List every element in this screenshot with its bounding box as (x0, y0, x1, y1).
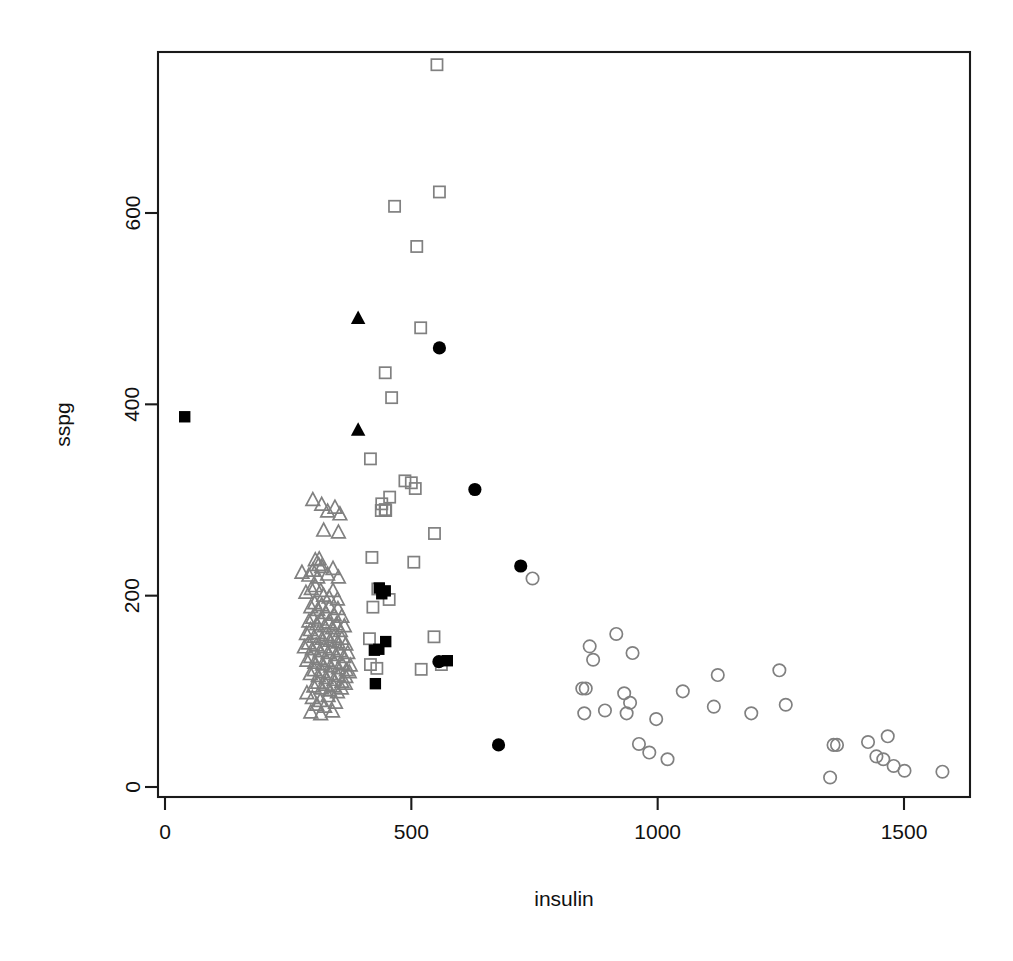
x-axis-title: insulin (534, 887, 594, 910)
y-tick-label: 600 (121, 195, 144, 230)
data-point (599, 704, 611, 716)
data-point (745, 707, 757, 719)
data-point (367, 602, 378, 613)
data-point (492, 738, 505, 751)
data-point (434, 186, 445, 197)
x-tick-label: 0 (159, 820, 171, 843)
data-point (433, 341, 446, 354)
data-point (610, 628, 622, 640)
data-point (514, 559, 527, 572)
data-point (429, 528, 440, 539)
data-point (898, 765, 910, 777)
data-point (428, 631, 439, 642)
data-point (578, 707, 590, 719)
data-point (365, 453, 376, 464)
data-point (526, 572, 538, 584)
data-point (936, 765, 948, 777)
x-tick-label: 1000 (634, 820, 681, 843)
data-point (384, 492, 395, 503)
data-point (366, 552, 377, 563)
data-point (643, 746, 655, 758)
series-filled-circle-black (432, 341, 527, 751)
y-axis-title: sspg (51, 402, 74, 446)
data-points-layer (179, 59, 949, 784)
plot-box (158, 52, 970, 797)
data-point (386, 392, 397, 403)
scatter-plot-figure: 0500100015000200400600insulinsspg (0, 0, 1013, 961)
data-point (411, 241, 422, 252)
data-point (408, 557, 419, 568)
x-tick-label: 1500 (881, 820, 928, 843)
data-point (468, 483, 481, 496)
data-point (620, 707, 632, 719)
axes-layer (145, 52, 970, 810)
data-point (380, 367, 391, 378)
data-point (370, 678, 381, 689)
data-point (389, 201, 400, 212)
data-point (677, 685, 689, 697)
data-point (364, 633, 375, 644)
data-point (179, 411, 190, 422)
y-tick-label: 0 (121, 781, 144, 793)
data-point (633, 738, 645, 750)
data-point (351, 422, 366, 435)
data-point (415, 322, 426, 333)
data-point (432, 655, 445, 668)
data-point (708, 700, 720, 712)
data-point (317, 523, 331, 536)
data-point (650, 713, 662, 725)
data-point (870, 750, 882, 762)
data-point (332, 525, 346, 538)
data-point (780, 699, 792, 711)
data-point (862, 736, 874, 748)
data-point (626, 647, 638, 659)
data-point (416, 664, 427, 675)
y-tick-label: 200 (121, 578, 144, 613)
data-point (882, 730, 894, 742)
axis-labels-layer: 0500100015000200400600insulinsspg (51, 195, 928, 910)
data-point (583, 640, 595, 652)
plot-canvas: 0500100015000200400600insulinsspg (0, 0, 1013, 961)
data-point (587, 654, 599, 666)
data-point (824, 771, 836, 783)
data-point (351, 310, 366, 323)
series-filled-triangle-black (351, 310, 366, 435)
data-point (431, 59, 442, 70)
data-point (661, 753, 673, 765)
data-point (373, 644, 384, 655)
series-open-triangle-grey (295, 493, 357, 720)
series-open-circle-grey (526, 572, 948, 783)
data-point (380, 585, 391, 596)
data-point (773, 664, 785, 676)
y-tick-label: 400 (121, 387, 144, 422)
x-tick-label: 500 (394, 820, 429, 843)
data-point (712, 669, 724, 681)
